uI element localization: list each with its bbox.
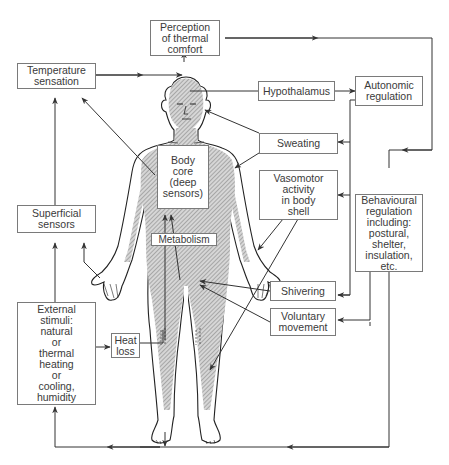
voluntary-movement-box: Voluntary movement: [270, 308, 336, 336]
thermoregulation-diagram: Perception of thermal comfort Temperatur…: [0, 0, 449, 465]
temperature-sensation-box: Temperature sensation: [17, 63, 96, 89]
voluntary-movement-label: Voluntary movement: [278, 311, 327, 333]
body-core-label: Body core (deep sensors): [163, 155, 203, 199]
human-body-figure: [92, 77, 281, 444]
superficial-sensors-box: Superficial sensors: [17, 205, 96, 233]
vasomotor-activity-box: Vasomotor activity in body shell: [259, 170, 338, 220]
autonomic-regulation-label: Autonomic regulation: [364, 80, 414, 102]
perception-of-thermal-comfort-box: Perception of thermal comfort: [150, 20, 220, 56]
metabolism-box: Metabolism: [151, 233, 217, 246]
superficial-sensors-label: Superficial sensors: [32, 208, 81, 230]
hypothalamus-label: Hypothalamus: [263, 86, 330, 97]
sweating-box: Sweating: [259, 133, 338, 154]
heat-loss-box: Heat loss: [111, 333, 140, 358]
temperature-sensation-label: Temperature sensation: [27, 65, 86, 87]
sweating-label: Sweating: [277, 138, 320, 149]
perception-label: Perception of thermal comfort: [160, 22, 210, 55]
external-stimuli-box: External stimuli: natural or thermal hea…: [17, 302, 96, 405]
hypothalamus-box: Hypothalamus: [258, 81, 335, 101]
shivering-box: Shivering: [270, 281, 336, 301]
shivering-label: Shivering: [281, 286, 325, 297]
metabolism-label: Metabolism: [158, 234, 209, 245]
heat-loss-label: Heat loss: [114, 335, 136, 357]
body-core-box: Body core (deep sensors): [157, 145, 209, 209]
behavioural-regulation-box: Behavioural regulation including: postur…: [355, 194, 423, 272]
behavioural-regulation-label: Behavioural regulation including: postur…: [361, 195, 416, 272]
external-stimuli-label: External stimuli: natural or thermal hea…: [37, 304, 76, 403]
vasomotor-activity-label: Vasomotor activity in body shell: [274, 173, 324, 217]
autonomic-regulation-box: Autonomic regulation: [355, 76, 423, 106]
head-shading: [169, 79, 204, 131]
